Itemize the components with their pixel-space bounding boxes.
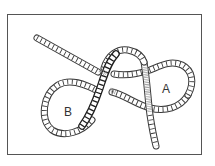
rope-loop-a <box>114 63 192 95</box>
loop-label-b: B <box>64 106 72 118</box>
rope-standing-part <box>144 62 156 146</box>
rope-knot-illustration: .ro { fill: none; stroke: #3a3a3a; strok… <box>0 0 215 166</box>
loop-label-a: A <box>162 83 170 95</box>
rope-upper-tail <box>37 38 98 72</box>
